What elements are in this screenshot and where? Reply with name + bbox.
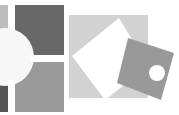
white-dot [149,65,165,81]
vertical-gutter [8,80,14,115]
horizontal-gutter [30,55,66,62]
abstract-graphic [0,0,179,115]
quadrant-squares-graphic [0,5,66,115]
tilted-squares-graphic [69,15,174,100]
